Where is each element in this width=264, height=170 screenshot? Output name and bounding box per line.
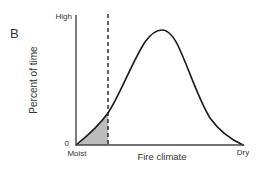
fire-climate-chart: B Percent of time High 0 Moist Dry Fire … xyxy=(0,0,264,170)
y-tick-high: High xyxy=(56,12,72,21)
y-tick-zero: 0 xyxy=(65,139,70,148)
panel-label: B xyxy=(10,26,19,41)
x-tick-dry: Dry xyxy=(237,148,249,157)
x-tick-moist: Moist xyxy=(67,149,87,158)
y-axis-title: Percent of time xyxy=(28,46,39,114)
x-axis-title: Fire climate xyxy=(137,151,186,162)
